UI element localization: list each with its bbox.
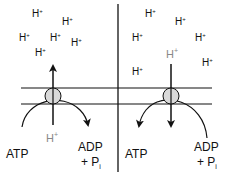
proton-label: H+ <box>175 16 186 27</box>
atp-label: ATP <box>6 147 28 161</box>
atp-label: ATP <box>125 147 147 161</box>
adp-label: ADP <box>78 140 103 154</box>
atp-synthase-diagram: H+ H+ H+ H+ H+ H+ H+ ATP ADP + Pi H+ H+ … <box>0 0 229 191</box>
proton-label: H+ <box>195 32 206 43</box>
pi-label: + Pi <box>197 155 217 170</box>
proton-label: H+ <box>35 47 46 58</box>
proton-label: H+ <box>32 8 43 19</box>
adp-label: ADP <box>194 140 219 154</box>
proton-label: H+ <box>19 32 30 43</box>
right-panel: H+ H+ H+ H+ H+ H+ H+ ATP ADP + Pi <box>125 8 219 170</box>
left-panel: H+ H+ H+ H+ H+ H+ H+ ATP ADP + Pi <box>6 8 103 170</box>
synthesis-arc-arrow <box>139 100 207 138</box>
proton-label: H+ <box>132 32 143 43</box>
proton-label: H+ <box>132 66 143 77</box>
proton-label: H+ <box>202 57 213 68</box>
pi-label: + Pi <box>81 155 101 170</box>
proton-label: H+ <box>145 8 156 19</box>
proton-label: H+ <box>50 32 61 43</box>
translocated-proton-label: H+ <box>166 47 178 60</box>
proton-label: H+ <box>71 37 82 48</box>
proton-label: H+ <box>62 16 73 27</box>
translocated-proton-label: H+ <box>46 131 58 144</box>
